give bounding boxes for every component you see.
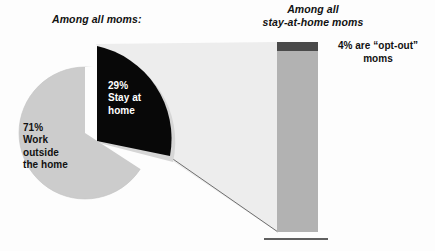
bar-stay-at-home-total <box>277 50 318 232</box>
pie-label-work-outside-home: 71% Work outside the home <box>23 122 68 171</box>
pie-label-stay-at-home: 29% Stay at home <box>108 80 141 117</box>
caption-among-all-stay-at-home-moms: Among all stay-at-home moms <box>243 3 383 28</box>
pie-bar-of-pie-figure: Among all moms: Among all stay-at-home m… <box>0 0 435 251</box>
annotation-opt-out-moms: 4% are “opt-out” moms <box>322 40 434 65</box>
bar-segment-opt-out <box>277 42 318 51</box>
caption-among-all-moms: Among all moms: <box>52 13 142 26</box>
